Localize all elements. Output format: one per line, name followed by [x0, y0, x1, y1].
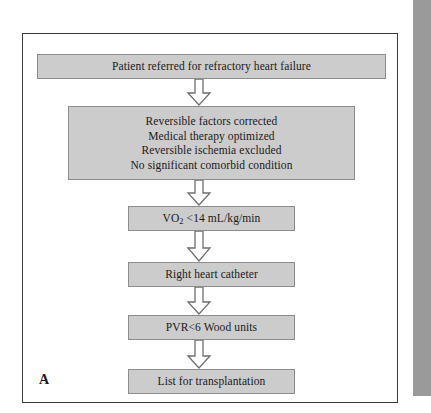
flow-node-list-transplant-line-1: List for transplantation: [158, 374, 266, 389]
figure-frame: Patient referred for refractory heart fa…: [22, 33, 398, 403]
arrow-down-icon: [186, 287, 212, 315]
flow-node-pvr: PVR<6 Wood units: [128, 315, 295, 340]
flow-node-pvr-line-1: PVR<6 Wood units: [166, 320, 257, 335]
flow-node-vo2-text: VO2 <14 mL/kg/min: [163, 211, 261, 226]
flow-node-referral-line-1: Patient referred for refractory heart fa…: [112, 59, 311, 74]
flow-node-right-heart-catheter: Right heart catheter: [128, 262, 295, 287]
arrow-down-icon: [186, 231, 212, 262]
arrow-down-icon: [186, 180, 212, 206]
arrow-down-icon: [186, 340, 212, 369]
flow-node-criteria-line-1: Reversible factors corrected: [146, 114, 278, 129]
flow-node-criteria-line-4: No significant comorbid condition: [130, 158, 292, 173]
panel-label: A: [39, 372, 49, 388]
page-edge-band: [413, 0, 431, 396]
flow-node-right-heart-catheter-line-1: Right heart catheter: [165, 267, 258, 282]
flow-node-criteria-line-2: Medical therapy optimized: [148, 129, 274, 144]
flow-node-criteria-line-3: Reversible ischemia excluded: [141, 143, 281, 158]
flow-node-list-transplant: List for transplantation: [128, 369, 295, 394]
vo2-suffix: <14 mL/kg/min: [184, 212, 261, 224]
arrow-down-icon: [186, 79, 212, 106]
flow-node-vo2: VO2 <14 mL/kg/min: [128, 206, 295, 231]
flow-node-referral: Patient referred for refractory heart fa…: [37, 54, 386, 79]
flow-node-criteria: Reversible factors corrected Medical the…: [68, 106, 355, 180]
vo2-prefix: VO: [163, 212, 180, 224]
